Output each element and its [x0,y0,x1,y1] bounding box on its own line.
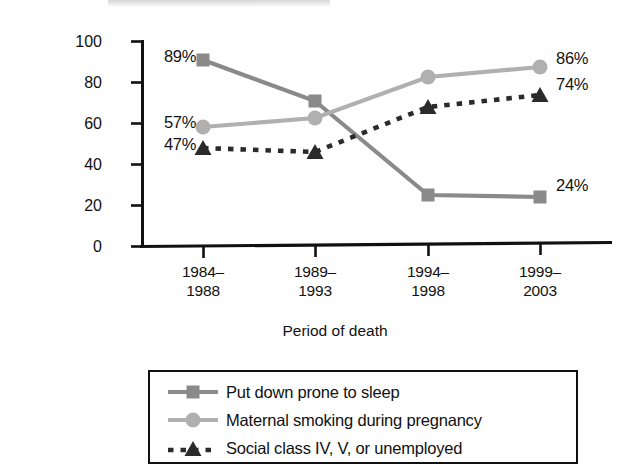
legend-label-maternal-smoking-during-pregnancy: Maternal smoking during pregnancy [226,410,482,430]
legend-label-put-down-prone-to-sleep: Put down prone to sleep [226,382,399,402]
legend-key-square-icon [164,381,222,403]
chart-figure: Prevalence amongst SIDS cases (%) 100 80… [0,0,622,473]
data-point-smoking-1999-2003 [533,60,548,75]
legend-label-social-class-iv-v-or-unemployed: Social class IV, V, or unemployed [226,438,462,458]
legend-item-put-down-prone-to-sleep[interactable]: Put down prone to sleep [164,378,576,406]
data-point-prone-1989-1993 [309,95,322,108]
data-point-smoking-1989-1993 [308,111,323,126]
legend-item-social-class-iv-v-or-unemployed[interactable]: Social class IV, V, or unemployed [164,434,576,462]
series-line-smoking [203,67,540,127]
legend-item-maternal-smoking-during-pregnancy[interactable]: Maternal smoking during pregnancy [164,406,576,434]
legend-key-circle-icon [164,409,222,431]
data-point-social-class-1984-1988 [195,140,212,155]
data-point-prone-1984-1988 [197,54,210,67]
data-point-smoking-1984-1988 [196,120,211,135]
series-put-down-prone-to-sleep [197,54,547,204]
data-point-prone-1994-1998 [422,189,435,202]
chart-legend: Put down prone to sleep Maternal smoking… [148,370,578,464]
series-line-prone [203,60,540,197]
data-point-smoking-1994-1998 [421,70,436,85]
data-point-prone-1999-2003 [534,191,547,204]
series-maternal-smoking-during-pregnancy [196,60,548,135]
legend-key-triangle-icon [164,437,222,459]
